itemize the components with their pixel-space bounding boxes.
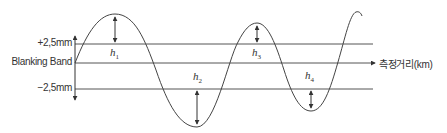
blanking-band-label: Blanking Band — [11, 56, 72, 67]
h4-label: h4 — [305, 69, 314, 84]
h1-sub: 1 — [116, 53, 120, 61]
h3-label: h3 — [252, 46, 261, 61]
profile-curve — [75, 12, 362, 127]
h2-label: h2 — [193, 70, 202, 85]
h2-sub: 2 — [199, 77, 203, 85]
lower-limit-label: −2,5mm — [37, 82, 72, 93]
h3-sub: 3 — [258, 53, 262, 61]
x-axis-label: 측정거리(km) — [379, 56, 433, 71]
h4-sub: 4 — [311, 76, 315, 84]
h1-label: h1 — [110, 46, 119, 61]
upper-limit-label: +2,5mm — [37, 37, 72, 48]
